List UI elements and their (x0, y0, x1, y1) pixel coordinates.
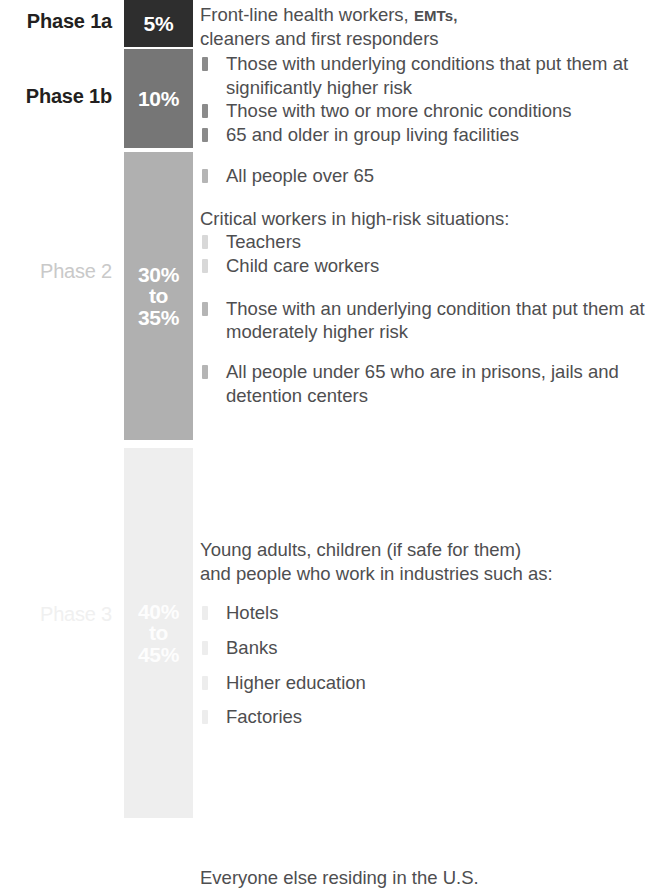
list-item-text: Child care workers (226, 255, 379, 276)
phase-3-lead-line2: and people who work in industries such a… (200, 562, 655, 586)
list-item-text: 65 and older in group living facilities (226, 124, 519, 145)
phase-2-bullet-list-critical: Teachers Child care workers (200, 230, 655, 277)
list-item: Those with two or more chronic condition… (200, 99, 655, 123)
list-item: Teachers (200, 230, 655, 254)
vaccine-phases-infographic: Phase 1a 5% Front-line health workers, E… (0, 0, 655, 894)
list-item: Those with an underlying condition that … (200, 297, 655, 344)
list-item: Hotels (200, 601, 655, 625)
phase-percent-1b: 10% (138, 88, 179, 110)
list-item-text: All people under 65 who are in prisons, … (226, 361, 619, 406)
spacer (200, 278, 655, 297)
phase-content-1a: Front-line health workers, EMTs, cleaner… (200, 3, 655, 50)
bullet-marker-icon (202, 128, 208, 142)
phase-percent-2-line1: 30% (138, 264, 179, 286)
bullet-marker-icon (202, 104, 208, 118)
list-item: All people over 65 (200, 164, 655, 188)
bullet-marker-icon (202, 235, 208, 249)
phase-1b-bullet-list: Those with underlying conditions that pu… (200, 52, 655, 147)
list-item: Those with underlying conditions that pu… (200, 52, 655, 99)
phase-2-bullet-list-top: All people over 65 (200, 164, 655, 188)
phase-3-lead-line1: Young adults, children (if safe for them… (200, 538, 655, 562)
bullet-marker-icon (202, 641, 208, 655)
phase-content-2: All people over 65 Critical workers in h… (200, 164, 655, 407)
phase-1a-lead-line2: cleaners and first responders (200, 27, 655, 51)
phase-label-2: Phase 2 (0, 260, 112, 283)
phase-content-3: Young adults, children (if safe for them… (200, 538, 655, 729)
bullet-marker-icon (202, 57, 208, 71)
phase-bar-3: 40% to 45% (124, 448, 193, 818)
bullet-marker-icon (202, 676, 208, 690)
phase-3-bullet-list: Hotels Banks Higher education Factories (200, 601, 655, 729)
list-item-text: Banks (226, 637, 277, 658)
phase-percent-3-line2: to (149, 622, 168, 644)
phase-percent-1a: 5% (144, 13, 174, 35)
phase-2-bullet-list-spaced: Those with an underlying condition that … (200, 297, 655, 344)
phase-row-1a: Phase 1a 5% Front-line health workers, E… (0, 0, 655, 47)
list-item: Higher education (200, 671, 655, 695)
phase-2-bullet-list-spaced-2: All people under 65 who are in prisons, … (200, 360, 655, 407)
phase-1a-lead-text: Front-line health workers, (200, 4, 414, 25)
phase-label-3: Phase 3 (0, 603, 112, 626)
spacer (200, 344, 655, 360)
phase-row-2: Phase 2 30% to 35% All people over 65 Cr… (0, 152, 655, 440)
phase-label-1b: Phase 1b (0, 85, 112, 108)
phase-row-1b: Phase 1b 10% Those with underlying condi… (0, 49, 655, 148)
list-item-text: Those with two or more chronic condition… (226, 100, 571, 121)
phase-label-1a: Phase 1a (0, 10, 112, 33)
bullet-marker-icon (202, 365, 208, 379)
list-item-text: Those with underlying conditions that pu… (226, 53, 628, 98)
list-item-text: Factories (226, 706, 302, 727)
list-item: All people under 65 who are in prisons, … (200, 360, 655, 407)
phase-row-3: Phase 3 40% to 45% Young adults, childre… (0, 448, 655, 818)
phase-1a-emts-abbr: EMTs, (414, 7, 458, 24)
phase-bar-1b: 10% (124, 49, 193, 148)
bullet-marker-icon (202, 259, 208, 273)
phase-content-1b: Those with underlying conditions that pu… (200, 52, 655, 147)
bullet-marker-icon (202, 710, 208, 724)
phase-percent-2-line3: 35% (138, 307, 179, 329)
list-item: Banks (200, 636, 655, 660)
phase-percent-2-line2: to (149, 285, 168, 307)
list-item: 65 and older in group living facilities (200, 123, 655, 147)
list-item-text: All people over 65 (226, 165, 374, 186)
bullet-marker-icon (202, 606, 208, 620)
list-item: Child care workers (200, 254, 655, 278)
list-item-text: Hotels (226, 602, 278, 623)
phase-percent-3-line3: 45% (138, 644, 179, 666)
list-item-text: Higher education (226, 672, 366, 693)
bullet-marker-icon (202, 302, 208, 316)
phase-2-subhead: Critical workers in high-risk situations… (200, 207, 655, 231)
footer-everyone-else-note: Everyone else residing in the U.S. (200, 866, 655, 890)
phase-percent-3-line1: 40% (138, 601, 179, 623)
list-item-text: Teachers (226, 231, 301, 252)
phase-bar-2: 30% to 35% (124, 152, 193, 440)
list-item: Factories (200, 705, 655, 729)
phase-1a-lead-line: Front-line health workers, EMTs, (200, 3, 655, 27)
spacer (200, 585, 655, 601)
bullet-marker-icon (202, 169, 208, 183)
phase-bar-1a: 5% (124, 0, 193, 47)
spacer (200, 188, 655, 207)
list-item-text: Those with an underlying condition that … (226, 298, 645, 343)
